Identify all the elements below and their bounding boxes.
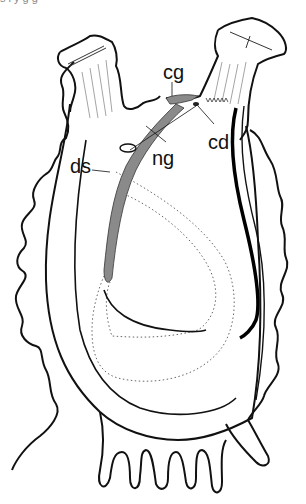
outer-tunic-outline	[12, 62, 74, 470]
label-ng: ng	[152, 148, 174, 168]
atrial-siphon-slit	[230, 32, 272, 50]
label-ds: ds	[70, 156, 91, 176]
stomach-outline	[104, 290, 206, 332]
oral-siphon-muscle-lines	[82, 60, 112, 118]
atrial-siphon-zigzag	[206, 98, 228, 102]
mantle-outline	[75, 140, 236, 414]
ciliated-duct-opening	[193, 102, 199, 106]
label-cg: cg	[163, 62, 184, 82]
cerebral-ganglion	[166, 95, 198, 104]
oral-siphon	[60, 35, 160, 109]
atrial-siphon-muscle-lines	[214, 62, 246, 104]
atrial-siphon	[218, 18, 286, 140]
ascidian-anatomy-diagram	[0, 0, 306, 504]
label-cd: cd	[208, 132, 229, 152]
dorsal-strand	[104, 104, 184, 282]
